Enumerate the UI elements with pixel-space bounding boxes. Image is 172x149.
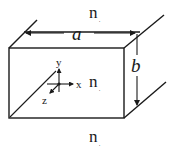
origin-dot <box>57 82 60 85</box>
n-top-label: n <box>89 3 98 22</box>
region-label-top: n , <box>89 3 100 23</box>
dimension-b: b <box>131 34 141 105</box>
region-label-bottom: n , <box>89 127 100 147</box>
region-label-core: n , <box>89 72 100 92</box>
inner-diagonal <box>10 71 56 117</box>
bottom-right-edge <box>124 82 166 118</box>
dimension-a: a <box>26 23 135 44</box>
waveguide-diagram: a b n , n , n , y x z <box>0 0 172 149</box>
x-axis-label: x <box>76 78 82 90</box>
front-face <box>9 48 124 118</box>
top-left-edge <box>9 20 37 48</box>
coordinate-axes: y x z <box>42 56 82 106</box>
n-core-subscript: , <box>99 86 100 92</box>
n-bottom-subscript: , <box>99 141 100 147</box>
z-axis-label: z <box>42 94 47 106</box>
dimension-a-label: a <box>72 23 82 44</box>
dimension-b-label: b <box>131 55 141 76</box>
n-core-label: n <box>89 72 98 91</box>
y-axis-label: y <box>56 56 62 68</box>
n-top-subscript: , <box>99 17 100 23</box>
n-bottom-label: n <box>89 127 98 146</box>
box-outline <box>9 15 166 118</box>
z-axis-arrow <box>50 84 59 93</box>
